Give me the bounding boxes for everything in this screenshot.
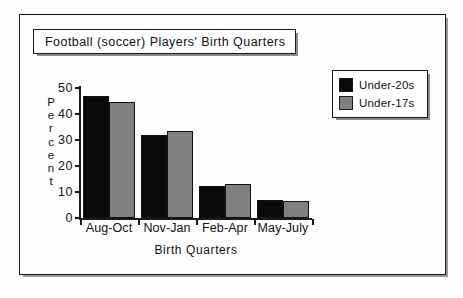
bar-group [257,88,309,218]
chart-legend: Under-20s Under-17s [332,70,428,118]
bar-group [141,88,193,218]
y-axis-title-letter: e [44,149,58,162]
y-tick-label: 20 [58,159,73,173]
y-axis-title-letter: r [44,122,58,135]
bar-group [83,88,135,218]
x-tick-label-feb-apr: Feb-Apr [196,221,254,235]
legend-item-under-20s: Under-20s [339,76,420,94]
y-tick-label: 40 [58,107,73,121]
x-tick-mark [312,219,314,225]
bar-nov-jan-under-20s[interactable] [141,135,167,218]
bar-aug-oct-under-17s[interactable] [109,102,135,218]
x-tick-label-may-july: May-July [254,221,312,235]
y-tick-mark [75,113,80,115]
y-axis-title-letter: t [44,175,58,188]
y-tick-mark [75,191,80,193]
y-tick-label: 0 [65,211,73,225]
bar-may-july-under-20s[interactable] [257,200,283,218]
bar-aug-oct-under-20s[interactable] [83,96,109,218]
x-tick-label-nov-jan: Nov-Jan [138,221,196,235]
legend-label-under-20s: Under-20s [359,79,415,91]
bar-group [199,88,251,218]
chart-title-box: Football (soccer) Players' Birth Quarter… [33,29,296,54]
page-title: Football (soccer) Players' Birth Quarter… [45,35,285,49]
bar-nov-jan-under-17s[interactable] [167,131,193,218]
y-axis-title: Percent [44,96,58,188]
y-axis-title-letter: n [44,162,58,175]
x-tick-label-aug-oct: Aug-Oct [80,221,138,235]
y-axis-title-letter: e [44,109,58,122]
legend-item-under-17s: Under-17s [339,94,420,112]
bar-may-july-under-17s[interactable] [283,201,309,218]
plot-area: 01020304050 [80,88,312,218]
y-axis-title-letter: c [44,136,58,149]
bar-feb-apr-under-20s[interactable] [199,186,225,219]
legend-swatch-under-20s [339,78,353,92]
legend-label-under-17s: Under-17s [359,97,415,109]
y-axis-line [79,86,81,218]
legend-swatch-under-17s [339,96,353,110]
y-tick-label: 10 [58,185,73,199]
y-tick-mark [75,139,80,141]
bar-feb-apr-under-17s[interactable] [225,184,251,218]
y-tick-mark [75,87,80,89]
y-tick-mark [75,165,80,167]
x-axis-title: Birth Quarters [80,243,312,257]
y-tick-label: 30 [58,133,73,147]
y-axis-title-letter: P [44,96,58,109]
y-tick-label: 50 [58,81,73,95]
